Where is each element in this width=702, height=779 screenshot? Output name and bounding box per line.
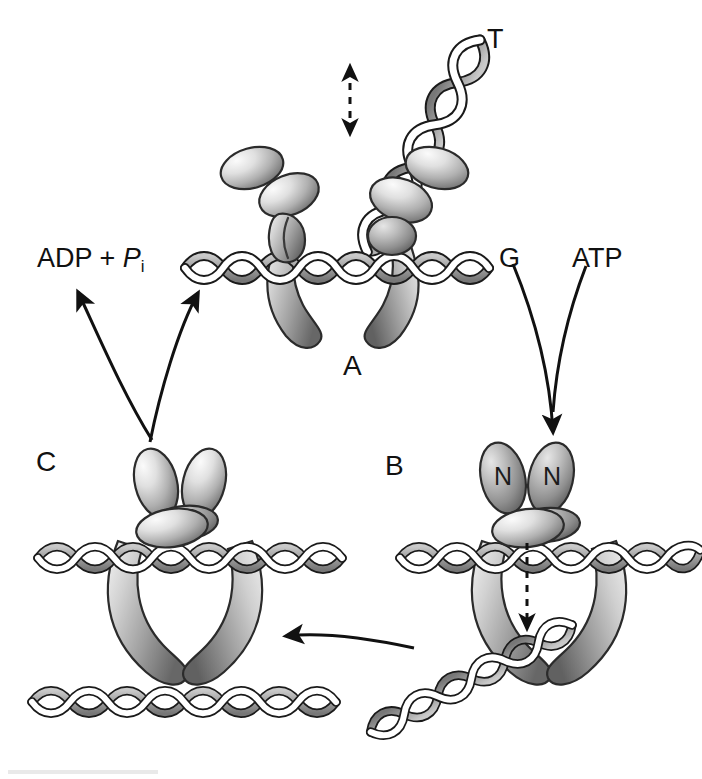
state-b-illustration [365,438,700,742]
atp-binding-arrow [553,266,586,412]
g-binding-arrow [513,264,553,432]
label-t-segment: T [487,26,504,53]
label-n-domain-right: N [543,464,561,489]
figure-canvas: T G ATP ADP + Pi A C B N N [0,0,702,779]
b-to-c-arrow [286,635,414,648]
label-g-segment: G [499,245,520,272]
label-adp-prefix: ADP + [37,243,123,273]
label-n-domain-left: N [494,464,512,489]
dna-g-segment-state-a [185,256,489,280]
figure-artwork [0,0,702,779]
label-atp: ATP [572,245,623,272]
c-to-a-arrow [150,293,198,442]
scan-edge-artifact [8,770,158,774]
label-adp-pi: ADP + Pi [37,245,145,275]
dna-g-segment-state-b [400,545,700,569]
domain-a-right-head [368,217,416,255]
label-pi-subscript: i [141,257,145,276]
state-c-illustration [32,444,342,713]
state-a-illustration [185,33,493,348]
label-state-c: C [36,448,56,476]
label-state-a: A [343,352,362,380]
label-pi-p: P [123,243,141,273]
dna-t-segment-released-c [32,691,336,714]
adp-release-arrow [78,292,152,440]
label-state-b: B [385,452,404,480]
dna-g-segment-state-c [38,547,342,570]
